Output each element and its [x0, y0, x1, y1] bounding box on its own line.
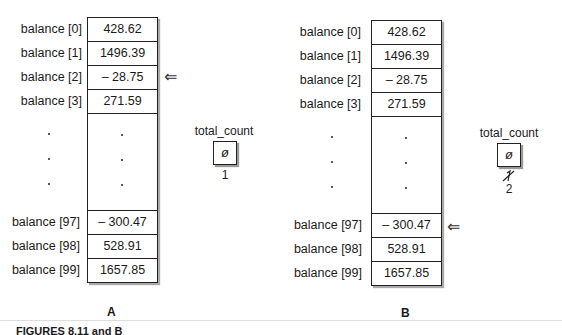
pointer-arrow-icon: ⇐ — [447, 219, 460, 235]
panel-b: balance [0] balance [1] balance [2] bala… — [281, 0, 562, 300]
array-ellipsis-block — [88, 114, 157, 211]
ellipsis-dot — [121, 134, 123, 136]
ellipsis-dot — [121, 159, 123, 161]
label-balance-3: balance [3] — [281, 92, 361, 116]
label-balance-0: balance [0] — [2, 17, 82, 41]
variable-box: ø — [213, 141, 237, 165]
array-ellipsis-block — [372, 117, 441, 214]
array-cell: 1496.39 — [372, 45, 441, 69]
array-cell: 1657.85 — [88, 259, 157, 282]
label-balance-1: balance [1] — [2, 41, 82, 65]
array-cell: 271.59 — [88, 90, 157, 114]
label-balance-97: balance [97] — [282, 213, 362, 237]
label-balance-98: balance [98] — [0, 234, 80, 258]
array-cell: 528.91 — [88, 235, 157, 259]
figure-letter-a: A — [107, 305, 116, 319]
variable-name: total_count — [469, 126, 549, 140]
panel-a: balance [0] balance [1] balance [2] bala… — [0, 0, 281, 300]
label-balance-2: balance [2] — [281, 68, 361, 92]
divider — [0, 320, 562, 321]
label-balance-2: balance [2] — [2, 65, 82, 89]
ellipsis-dot — [331, 161, 333, 163]
ellipsis-dot — [121, 184, 123, 186]
array-cell: – 300.47 — [372, 214, 441, 238]
array-cell: 1657.85 — [372, 262, 441, 285]
ellipsis-dot — [48, 133, 50, 135]
figure-caption: FIGURES 8.11 and B — [16, 325, 122, 335]
balance-array: 428.62 1496.39 – 28.75 271.59 – 300.47 5… — [371, 20, 442, 286]
figure-letter-b: B — [401, 306, 410, 320]
ellipsis-dot — [405, 137, 407, 139]
variable-value: 2 — [499, 182, 519, 196]
variable-value: 1 — [215, 168, 235, 182]
array-cell: 1496.39 — [88, 42, 157, 66]
balance-array: 428.62 1496.39 – 28.75 271.59 – 300.47 5… — [87, 17, 158, 283]
ellipsis-dot — [331, 136, 333, 138]
label-balance-3: balance [3] — [2, 89, 82, 113]
variable-name: total_count — [184, 124, 264, 138]
array-cell: 528.91 — [372, 238, 441, 262]
pointer-arrow-icon: ⇐ — [164, 69, 177, 85]
array-cell: 428.62 — [88, 18, 157, 42]
crossed-out-one-icon — [499, 169, 519, 183]
label-balance-98: balance [98] — [282, 237, 362, 261]
ellipsis-dot — [331, 186, 333, 188]
label-balance-99: balance [99] — [282, 261, 362, 285]
ellipsis-dot — [405, 162, 407, 164]
label-balance-99: balance [99] — [0, 258, 80, 282]
array-cell: – 28.75 — [88, 66, 157, 90]
array-cell: – 300.47 — [88, 211, 157, 235]
label-balance-1: balance [1] — [281, 44, 361, 68]
array-cell: – 28.75 — [372, 69, 441, 93]
ellipsis-dot — [48, 183, 50, 185]
ellipsis-dot — [405, 187, 407, 189]
array-cell: 428.62 — [372, 21, 441, 45]
label-balance-97: balance [97] — [0, 210, 80, 234]
array-cell: 271.59 — [372, 93, 441, 117]
label-balance-0: balance [0] — [281, 20, 361, 44]
variable-box: ø — [497, 143, 521, 167]
ellipsis-dot — [48, 158, 50, 160]
